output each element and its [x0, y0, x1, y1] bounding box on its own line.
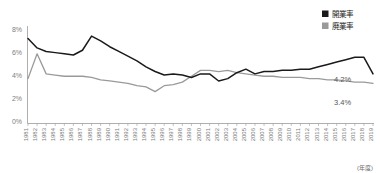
- x-axis-unit-label: (年度): [357, 164, 373, 172]
- x-tick-label: 2010: [286, 127, 292, 141]
- x-tick-label: 1999: [186, 127, 192, 141]
- x-tick-label: 1985: [59, 127, 65, 141]
- x-axis-tick-group: 1981198219831984198519861987198819891990…: [23, 124, 374, 142]
- x-tick-label: 1998: [177, 127, 183, 141]
- x-tick-label: 2017: [350, 127, 356, 141]
- x-tick-label: 2013: [314, 127, 320, 141]
- x-tick-label: 1989: [96, 127, 102, 141]
- y-tick-label: 2%: [12, 95, 22, 102]
- y-tick-label: 4%: [12, 72, 22, 79]
- x-tick-label: 2004: [232, 127, 238, 141]
- x-tick-label: 2000: [196, 127, 202, 141]
- x-tick-label: 2015: [332, 127, 338, 141]
- annotation-entry-rate: 4.2%: [334, 75, 351, 84]
- x-tick-label: 1984: [50, 127, 56, 141]
- x-tick-label: 1981: [23, 127, 29, 141]
- x-tick-label: 1983: [41, 127, 47, 141]
- x-tick-label: 1990: [105, 127, 111, 141]
- x-tick-label: 2008: [268, 127, 274, 141]
- business-entry-exit-rate-chart: 8% 6% 4% 2% 0% 1981198219831984198519861…: [0, 0, 380, 173]
- legend-swatch-entry-rate: [322, 11, 329, 18]
- x-tick-label: 1988: [87, 127, 93, 141]
- x-tick-label: 2006: [250, 127, 256, 141]
- x-tick-label: 1995: [150, 127, 156, 141]
- x-tick-label: 2011: [295, 127, 301, 141]
- x-tick-label: 2003: [223, 127, 229, 141]
- series-line-exit-rate: [28, 54, 373, 92]
- x-tick-label: 1992: [123, 127, 129, 141]
- x-tick-label: 2007: [259, 127, 265, 141]
- x-tick-label: 1996: [159, 127, 165, 141]
- y-tick-label: 0%: [12, 118, 22, 125]
- annotation-exit-rate: 3.4%: [334, 98, 351, 107]
- x-tick-label: 1991: [114, 127, 120, 141]
- x-tick-label: 1986: [68, 127, 74, 141]
- x-tick-label: 2005: [241, 127, 247, 141]
- x-tick-label: 1987: [77, 127, 83, 141]
- chart-canvas: 8% 6% 4% 2% 0% 1981198219831984198519861…: [0, 0, 380, 173]
- y-tick-label: 6%: [12, 49, 22, 56]
- x-tick-label: 2012: [304, 127, 310, 141]
- x-tick-label: 1994: [141, 127, 147, 141]
- legend-label-exit-rate: 廃業率: [332, 21, 354, 31]
- series-line-entry-rate: [28, 36, 373, 81]
- x-tick-label: 2016: [341, 127, 347, 141]
- x-tick-label: 1997: [168, 127, 174, 141]
- y-tick-label: 8%: [12, 26, 22, 33]
- x-tick-label: 1982: [32, 127, 38, 141]
- x-tick-label: 2001: [205, 127, 211, 141]
- x-tick-label: 2009: [277, 127, 283, 141]
- x-tick-label: 2002: [214, 127, 220, 141]
- x-tick-label: 2018: [359, 127, 365, 141]
- x-tick-label: 2014: [323, 127, 329, 141]
- x-tick-label: 2019: [368, 127, 374, 141]
- legend-label-entry-rate: 開業率: [332, 9, 354, 19]
- legend-swatch-exit-rate: [322, 23, 329, 30]
- chart-legend: 開業率 廃業率: [322, 9, 354, 31]
- x-tick-label: 1993: [132, 127, 138, 141]
